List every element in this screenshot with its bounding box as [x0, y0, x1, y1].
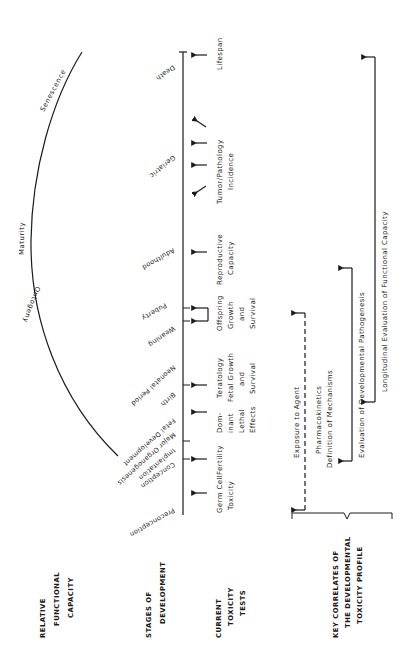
stage-weaning: Weaning	[147, 324, 177, 348]
svg-text:Survival: Survival	[249, 298, 257, 329]
stage-preconception: Preconception	[128, 506, 176, 538]
pharmacokinetics-label: Pharmacokinetics	[315, 386, 323, 454]
header-stages-of-development: STAGES OF DEVELOPMENT	[145, 562, 167, 638]
svg-text:THE DEVELOPMENTAL: THE DEVELOPMENTAL	[344, 536, 352, 628]
svg-text:KEY CORRELATES OF: KEY CORRELATES OF	[332, 550, 340, 638]
svg-text:CAPACITY: CAPACITY	[67, 577, 75, 618]
svg-text:CURRENT: CURRENT	[215, 599, 223, 638]
toxicity-test-labels: Germ Cell Toxicity Fertility Dom- inant …	[216, 37, 257, 513]
test-tumor-pathology: Tumor/Pathology Incidence	[216, 140, 235, 205]
svg-text:DEVELOPMENT: DEVELOPMENT	[159, 562, 167, 624]
header-current-toxicity-tests: CURRENT TOXICITY TESTS	[215, 587, 247, 638]
svg-text:and: and	[238, 372, 246, 386]
svg-text:Toxicity: Toxicity	[227, 481, 235, 511]
svg-text:RELATIVE: RELATIVE	[39, 598, 47, 638]
svg-text:Lethal: Lethal	[238, 409, 246, 433]
mechanisms-label: Definition of Mechanisms	[326, 370, 334, 468]
stage-labels: Preconception Conception Implantation Ma…	[115, 63, 177, 538]
curve-label-senescence: Senescence	[39, 68, 68, 113]
curve-label-ontogeny: Ontogeny	[21, 285, 42, 324]
longitudinal-label: Longitudinal Evaluation of Functional Ca…	[381, 211, 389, 392]
svg-text:FUNCTIONAL: FUNCTIONAL	[53, 572, 61, 626]
test-offspring: Offspring Growth and Survival	[216, 295, 257, 331]
svg-text:Dom-: Dom-	[216, 412, 224, 433]
header-relative-functional-capacity: RELATIVE FUNCTIONAL CAPACITY	[39, 572, 75, 638]
stage-puberty: Puberty	[140, 301, 168, 322]
test-germ-cell: Germ Cell Toxicity	[216, 475, 235, 513]
test-dominant-lethal: Dom- inant Lethal Effects	[216, 406, 257, 433]
key-correlates: Exposure to Agent Pharmacokinetics Defin…	[292, 57, 392, 519]
svg-text:Capacity: Capacity	[227, 241, 235, 275]
developmental-toxicity-diagram: Senescence Maturity Ontogeny Preconcepti…	[0, 0, 402, 656]
stage-ticks	[183, 308, 190, 459]
svg-text:STAGES OF: STAGES OF	[145, 591, 153, 638]
svg-text:TOXICITY: TOXICITY	[227, 587, 235, 626]
stage-geriatric: Geriatric	[148, 153, 177, 179]
stage-death: Death	[154, 63, 176, 82]
test-arrows	[196, 55, 208, 493]
svg-text:and: and	[238, 307, 246, 321]
header-key-correlates: KEY CORRELATES OF THE DEVELOPMENTAL TOXI…	[332, 536, 364, 638]
test-teratology: Teratology Fetal Growth and Survival	[216, 353, 257, 402]
svg-text:TOXICITY PROFILE: TOXICITY PROFILE	[356, 546, 364, 624]
svg-text:Teratology: Teratology	[216, 358, 224, 399]
curve-label-maturity: Maturity	[18, 222, 26, 255]
stage-adulthood: Adulthood	[141, 246, 176, 271]
key-correlates-brace	[292, 513, 392, 519]
pathogenesis-label: Evaluation of Developmental Pathogenesis	[358, 292, 366, 458]
svg-text:Tumor/Pathology: Tumor/Pathology	[216, 140, 224, 205]
exposure-label: Exposure to Agent	[293, 387, 301, 458]
svg-text:inant: inant	[227, 413, 235, 433]
svg-text:TESTS: TESTS	[239, 590, 247, 616]
test-reproductive: Reproductive Capacity	[216, 234, 235, 285]
svg-text:Survival: Survival	[249, 363, 257, 394]
svg-text:Fertility: Fertility	[216, 445, 224, 475]
svg-text:Germ Cell: Germ Cell	[216, 475, 224, 513]
svg-text:Lifespan: Lifespan	[216, 37, 224, 70]
stage-birth: Birth	[159, 391, 177, 409]
row-headers: RELATIVE FUNCTIONAL CAPACITY STAGES OF D…	[39, 536, 364, 638]
svg-text:Effects: Effects	[249, 406, 257, 433]
svg-text:Reproductive: Reproductive	[216, 234, 224, 285]
svg-text:Incidence: Incidence	[227, 153, 235, 190]
svg-text:Offspring: Offspring	[216, 295, 224, 331]
svg-text:Fetal Growth: Fetal Growth	[227, 353, 235, 402]
svg-text:Growth: Growth	[227, 301, 235, 329]
test-fertility: Fertility	[216, 445, 224, 475]
test-lifespan: Lifespan	[216, 37, 224, 70]
